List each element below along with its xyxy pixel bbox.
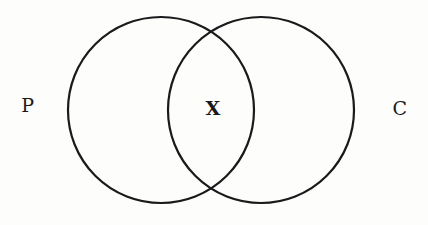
venn-label-intersection: X [198,99,228,118]
venn-label-right-set: C [384,99,416,118]
venn-label-left-set: P [12,96,44,115]
venn-diagram: P X C [0,0,428,225]
